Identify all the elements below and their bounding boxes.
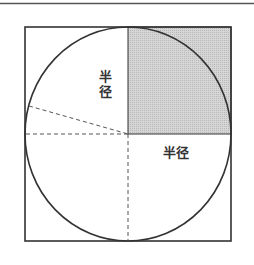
shaded-radius-square — [128, 27, 231, 134]
dashed-radius-slanted — [29, 106, 128, 134]
radius-label-vertical-2: 径 — [99, 84, 112, 99]
radius-label-vertical-1: 半 — [99, 69, 112, 84]
circle-square-diagram: 半 径 半径 — [0, 0, 254, 265]
radius-label-horizontal: 半径 — [163, 145, 189, 160]
